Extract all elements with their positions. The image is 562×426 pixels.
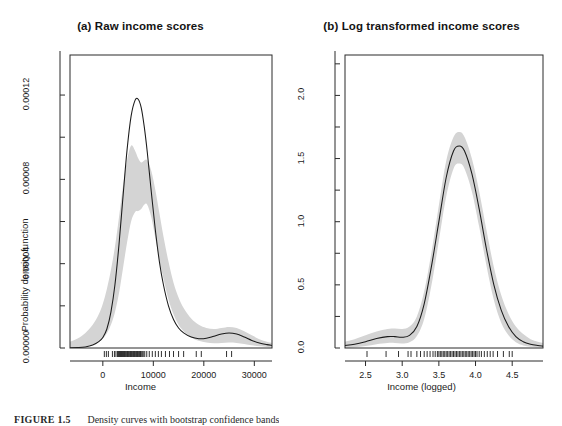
panel-b-ytick-label: 0.0 [296,317,306,377]
confidence-band [70,145,272,348]
panel-b-xtick-label: 4.5 [506,370,519,380]
panel-b-plot-area [281,0,562,426]
rug-plot [104,351,231,357]
panel-a-ytick-label: 0.00012 [21,64,31,124]
panel-b-xtick-label: 4.0 [469,370,482,380]
panel-b-xtick-label: 2.5 [359,370,372,380]
panel-a-xtick-label: 10000 [141,370,166,380]
panel-b-xtick-label: 3.0 [396,370,409,380]
panel-a-y-axis-title: Probability density function [19,218,30,331]
panel-a-x-axis-title: Income [0,381,281,392]
panel-raw-income-scores: (a) Raw income scores 0 10000 20000 3000… [0,0,281,426]
density-curve [70,98,272,348]
confidence-band [345,132,543,348]
rug-plot [367,351,512,357]
panel-b-ytick-label: 1.0 [296,191,306,251]
figure-caption-text: Density curves with bootstrap confidence… [87,414,279,425]
panel-a-plot-area [0,0,281,426]
panel-b-ytick-label: 2.0 [296,64,306,124]
x-axis [345,361,543,366]
panel-log-transformed-income-scores: (b) Log transformed income scores 2.5 3.… [281,0,562,426]
panel-a-xtick-label: 20000 [191,370,216,380]
panel-b-xtick-label: 3.5 [433,370,446,380]
x-axis [70,361,272,366]
panel-b-ytick-label: 1.5 [296,128,306,188]
panel-a-xtick-label: 0 [100,370,105,380]
figure-root: (a) Raw income scores 0 10000 20000 3000… [0,0,562,426]
panel-b-x-axis-title: Income (logged) [281,381,562,392]
figure-caption: FIGURE 1.5 Density curves with bootstrap… [14,414,279,426]
y-axis [60,51,65,348]
y-axis [335,51,340,348]
panel-b-ytick-label: 0.5 [296,254,306,314]
figure-caption-label: FIGURE 1.5 [14,414,71,425]
panel-a-xtick-label: 30000 [242,370,267,380]
panel-a-ytick-label: 0.00008 [21,148,31,208]
